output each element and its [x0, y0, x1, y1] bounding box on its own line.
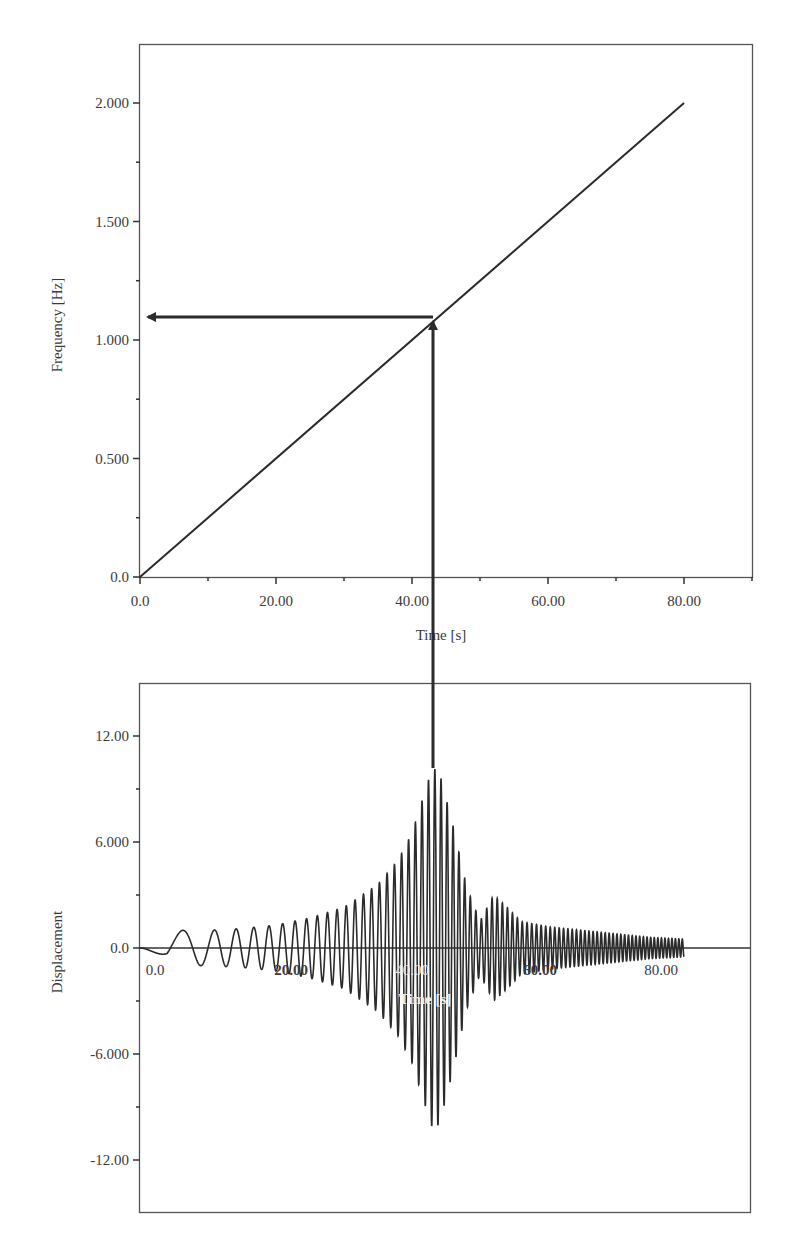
y-tick-label: -6.000: [90, 1046, 129, 1062]
frequency-x-axis-label: Time [s]: [416, 627, 467, 643]
x-tick-label: 80.00: [644, 962, 678, 978]
x-tick-label: 80.00: [667, 593, 701, 609]
y-tick-label: 0.0: [110, 940, 129, 956]
displacement-x-tick-labels: 0.0 20.00 40.00 60.00 80.00: [146, 962, 678, 978]
y-tick-label: 2.000: [95, 95, 129, 111]
resonance-arrows: [148, 317, 433, 768]
y-tick-label: 0.500: [95, 451, 129, 467]
displacement-y-tick-labels: 12.00 6.000 0.0 -6.000 -12.00: [90, 728, 129, 1168]
y-tick-label: 0.0: [110, 569, 129, 585]
x-tick-label: 0.0: [131, 593, 150, 609]
frequency-chart: 0.0 0.500 1.000 1.500 2.000 0.0 20.00 40…: [49, 45, 753, 644]
x-tick-label: 0.0: [146, 962, 165, 978]
y-tick-label: -12.00: [90, 1152, 129, 1168]
figure: 0.0 0.500 1.000 1.500 2.000 0.0 20.00 40…: [0, 0, 785, 1251]
frequency-y-axis-label: Frequency [Hz]: [49, 278, 65, 373]
x-tick-label: 20.00: [274, 962, 308, 978]
frequency-line: [140, 103, 684, 577]
y-tick-label: 1.000: [95, 332, 129, 348]
displacement-chart: 12.00 6.000 0.0 -6.000 -12.00 Displaceme…: [49, 684, 751, 1213]
y-tick-label: 6.000: [95, 834, 129, 850]
y-tick-label: 1.500: [95, 214, 129, 230]
x-tick-label: 60.00: [523, 962, 557, 978]
x-tick-label: 20.00: [259, 593, 293, 609]
y-tick-label: 12.00: [95, 728, 129, 744]
x-tick-label: 40.00: [395, 593, 429, 609]
x-tick-label: 60.00: [531, 593, 565, 609]
frequency-x-tick-labels: 0.0 20.00 40.00 60.00 80.00: [131, 593, 701, 609]
frequency-y-tick-labels: 0.0 0.500 1.000 1.500 2.000: [95, 95, 129, 585]
displacement-x-axis-label: Time [s]: [399, 991, 452, 1007]
x-tick-label: 40.00: [395, 962, 429, 978]
displacement-y-axis-label: Displacement: [49, 910, 65, 993]
